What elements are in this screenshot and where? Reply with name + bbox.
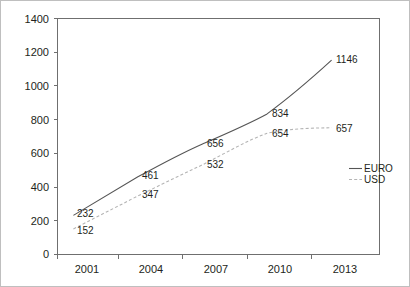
- chart-canvas: 1400 1200 1000 800 600 400 200 0 2001 20…: [1, 1, 410, 287]
- series-curve-usd: [73, 128, 331, 229]
- y-tick-label-800: 800: [31, 114, 49, 126]
- euro-label-2013: 1146: [336, 54, 358, 65]
- y-tick-label-0: 0: [43, 248, 49, 260]
- y-tick-label-200: 200: [31, 215, 49, 227]
- y-axis-ticks: [54, 19, 58, 255]
- x-tick-label-2010: 2010: [268, 263, 292, 275]
- line-chart: 1400 1200 1000 800 600 400 200 0 2001 20…: [0, 0, 410, 287]
- legend-label-usd[interactable]: USD: [364, 174, 385, 185]
- y-axis-tick-labels: 1400 1200 1000 800 600 400 200 0: [25, 13, 49, 261]
- x-axis-tick-labels: 2001 2004 2007 2010 2013: [75, 263, 357, 275]
- x-tick-label-2004: 2004: [139, 263, 163, 275]
- series-curve-euro: [73, 60, 331, 215]
- usd-label-2010: 654: [272, 128, 289, 139]
- euro-label-2010: 834: [272, 108, 289, 119]
- y-tick-label-1400: 1400: [25, 13, 49, 25]
- euro-label-2004: 461: [142, 170, 159, 181]
- usd-label-2001: 152: [77, 225, 94, 236]
- x-axis-ticks: [58, 255, 312, 260]
- euro-label-2001: 232: [77, 208, 94, 219]
- y-tick-label-600: 600: [31, 147, 49, 159]
- y-tick-label-1200: 1200: [25, 46, 49, 58]
- x-tick-label-2001: 2001: [75, 263, 99, 275]
- y-tick-label-400: 400: [31, 181, 49, 193]
- euro-point-labels: 232 461 656 834 1146: [77, 54, 358, 219]
- x-tick-label-2007: 2007: [204, 263, 228, 275]
- euro-label-2007: 656: [207, 138, 224, 149]
- y-tick-label-1000: 1000: [25, 80, 49, 92]
- usd-label-2013: 657: [336, 123, 353, 134]
- chart-legend: EURO USD: [349, 163, 393, 185]
- legend-label-euro[interactable]: EURO: [364, 163, 393, 174]
- usd-label-2004: 347: [142, 189, 159, 200]
- usd-label-2007: 532: [207, 159, 224, 170]
- x-tick-label-2013: 2013: [333, 263, 357, 275]
